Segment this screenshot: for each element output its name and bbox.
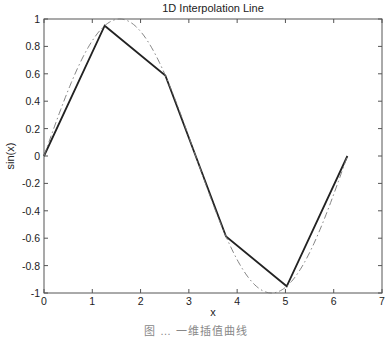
y-tick-label: 0.4	[25, 95, 40, 107]
y-tick-label: -0.4	[22, 205, 40, 217]
y-tick-label: 0.6	[25, 68, 40, 80]
x-tick-label: 5	[283, 295, 289, 307]
y-tick-label: -0.6	[22, 232, 40, 244]
y-tick-label: -0.8	[22, 260, 40, 272]
chart-title: 1D Interpolation Line	[162, 2, 264, 14]
y-axis-label: sin(x)	[4, 143, 16, 170]
axis-ticks: 01234567-1-0.8-0.6-0.4-0.200.20.40.60.81	[22, 13, 385, 307]
y-tick-label: 0.2	[25, 123, 40, 135]
figure-caption: 图 … 一维插值曲线	[0, 322, 392, 338]
x-axis-label: x	[210, 306, 216, 318]
y-tick-label: -1	[31, 287, 40, 299]
x-tick-label: 6	[331, 295, 337, 307]
y-tick-label: 1	[34, 13, 40, 25]
x-tick-label: 4	[234, 295, 240, 307]
x-tick-label: 0	[41, 295, 47, 307]
y-tick-label: 0	[34, 150, 40, 162]
plot-axes	[44, 19, 382, 293]
x-tick-label: 2	[138, 295, 144, 307]
x-tick-label: 7	[379, 295, 385, 307]
data-series	[44, 19, 347, 293]
x-tick-label: 1	[89, 295, 95, 307]
y-tick-label: -0.2	[22, 177, 40, 189]
x-tick-label: 3	[186, 295, 192, 307]
y-tick-label: 0.8	[25, 40, 40, 52]
